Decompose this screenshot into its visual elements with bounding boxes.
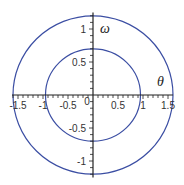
x-tick-label: 1.5 xyxy=(161,100,175,111)
omega-axis-label: ω xyxy=(100,21,110,36)
axes-group xyxy=(12,13,173,178)
x-ticks-group: -1.5-1-0.500.511.5 xyxy=(9,96,175,111)
x-tick-label: 1 xyxy=(140,100,146,111)
theta-axis-label: θ xyxy=(157,74,164,89)
x-tick-label: -1.5 xyxy=(9,100,27,111)
phase-portrait-chart: -1.5-1-0.500.511.5 10.5-0.5-1 θ ω xyxy=(0,0,184,185)
x-tick-label: -1 xyxy=(39,100,48,111)
y-tick-label: 1 xyxy=(80,24,86,35)
x-tick-label: -0.5 xyxy=(59,100,77,111)
y-tick-label: -1 xyxy=(77,156,86,167)
x-tick-label: 0 xyxy=(84,96,90,107)
x-tick-label: 0.5 xyxy=(111,100,125,111)
y-tick-label: 0.5 xyxy=(72,57,86,68)
y-tick-label: -0.5 xyxy=(69,123,87,134)
